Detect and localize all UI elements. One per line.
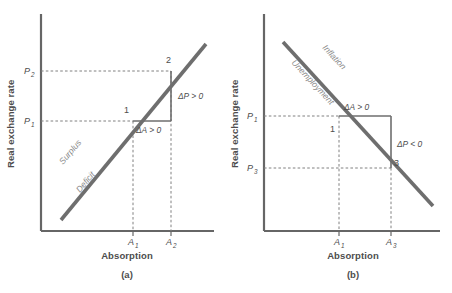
region-label-inflation: Inflation bbox=[321, 43, 349, 72]
y-tick-label-p2-base: P bbox=[24, 66, 30, 76]
annotation-delta-a-a: ΔA > 0 bbox=[135, 125, 161, 135]
panel-caption-b: (b) bbox=[347, 269, 359, 280]
x-tick-label-a1-sub: 1 bbox=[135, 242, 139, 249]
y-tick-label-p1-sub: 1 bbox=[31, 121, 35, 128]
point-label-1-b: 1 bbox=[330, 124, 335, 134]
y-axis-title-b: Real exchange rate bbox=[229, 80, 240, 168]
region-label-surplus: Surplus bbox=[57, 137, 84, 166]
economics-figure: Real exchange rate P 2 P 1 A 1 A 2 1 2 bbox=[0, 0, 452, 293]
y-tick-label-p3-b-base: P bbox=[247, 163, 253, 173]
point-label-3-b: 3 bbox=[394, 158, 399, 168]
x-tick-label-a3-b-sub: 3 bbox=[393, 242, 397, 249]
y-tick-label-p1-b-base: P bbox=[247, 111, 253, 121]
panel-a-plot: Real exchange rate P 2 P 1 A 1 A 2 1 2 bbox=[0, 0, 226, 293]
annotation-delta-p-b: ΔP < 0 bbox=[396, 139, 422, 149]
annotation-delta-p-a: ΔP > 0 bbox=[177, 91, 203, 101]
x-tick-label-a1-b-sub: 1 bbox=[341, 242, 345, 249]
y-tick-label-p3-b: P 3 bbox=[247, 163, 258, 175]
x-axis-title-b: Absorption bbox=[327, 250, 379, 261]
x-tick-label-a2-sub: 2 bbox=[172, 242, 177, 249]
y-tick-label-p1-base: P bbox=[24, 116, 30, 126]
x-tick-label-a3-b-base: A bbox=[385, 237, 392, 247]
point-label-2-a: 2 bbox=[166, 55, 171, 65]
x-tick-label-a1-b: A 1 bbox=[333, 237, 345, 249]
y-tick-label-p1-b: P 1 bbox=[247, 111, 258, 123]
panel-caption-a: (a) bbox=[121, 269, 133, 280]
x-axis-title-a: Absorption bbox=[101, 250, 153, 261]
panel-a: Real exchange rate P 2 P 1 A 1 A 2 1 2 bbox=[0, 0, 226, 293]
x-tick-label-a3-b: A 3 bbox=[385, 237, 397, 249]
y-tick-label-p1-b-sub: 1 bbox=[254, 116, 258, 123]
annotation-delta-a-b: ΔA > 0 bbox=[343, 102, 369, 112]
x-tick-label-a1-b-base: A bbox=[333, 237, 340, 247]
x-tick-label-a1-base: A bbox=[127, 237, 134, 247]
region-label-unemployment: Unemployment bbox=[290, 58, 337, 108]
y-axis-title-a: Real exchange rate bbox=[5, 80, 16, 168]
panel-b: Real exchange rate P 1 P 3 A 1 A 3 1 3 bbox=[226, 0, 452, 293]
point-label-1-a: 1 bbox=[124, 105, 129, 115]
x-tick-label-a1: A 1 bbox=[127, 237, 139, 249]
y-tick-label-p2-sub: 2 bbox=[30, 71, 35, 78]
panel-b-plot: Real exchange rate P 1 P 3 A 1 A 3 1 3 bbox=[226, 0, 452, 293]
y-tick-label-p3-b-sub: 3 bbox=[254, 168, 258, 175]
x-tick-label-a2: A 2 bbox=[165, 237, 177, 249]
y-tick-label-p2: P 2 bbox=[24, 66, 35, 78]
x-tick-label-a2-base: A bbox=[165, 237, 172, 247]
y-tick-label-p1: P 1 bbox=[24, 116, 35, 128]
